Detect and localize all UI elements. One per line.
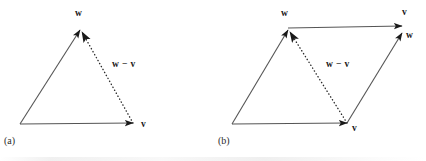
vector-v-top [288, 26, 402, 28]
panel-a-caption: (a) [4, 136, 15, 146]
vector-w-minus-v [290, 32, 347, 123]
panel-a-vectors [20, 30, 133, 124]
vector-w-right [347, 33, 402, 123]
panel-b-w-right-head-label: w [406, 31, 413, 41]
vector-w [20, 30, 80, 124]
panel-b-v-bottom-head-label: v [352, 124, 357, 134]
panel-b-vectors [232, 26, 402, 124]
vector-subtraction-figure: w v w − v (a) w v w v w − v (b) [0, 0, 426, 161]
figure-canvas [0, 0, 426, 161]
vector-v [20, 123, 133, 124]
vector-w-left [232, 30, 288, 124]
panel-a-w-head-label: w [75, 9, 82, 19]
panel-a-v-head-label: v [141, 120, 146, 130]
scan-artifact-strip [0, 157, 426, 161]
panel-b-caption: (b) [218, 136, 230, 146]
vector-w-minus-v [82, 32, 133, 123]
panel-b-v-top-head-label: v [402, 8, 407, 18]
vector-v-bottom [232, 123, 347, 124]
panel-b-w-minus-v-label: w − v [326, 60, 350, 70]
panel-b-w-head-label: w [281, 9, 288, 19]
panel-a-w-minus-v-label: w − v [112, 60, 136, 70]
